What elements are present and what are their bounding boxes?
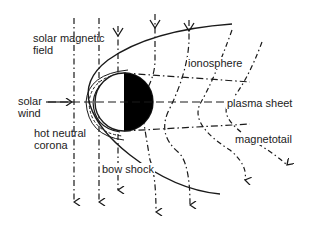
label-solar-magnetic-field-line2: field — [33, 44, 105, 56]
label-hot-neutral-corona: hot neutral corona — [34, 127, 86, 151]
label-bow-shock: bow shock — [101, 163, 155, 175]
label-magnetotail: magnetotail — [234, 133, 293, 145]
field-line-5 — [165, 20, 190, 205]
label-ionosphere: ionosphere — [187, 57, 243, 69]
field-line-top-arrows — [113, 20, 194, 36]
label-solar-magnetic-field-line1: solar magnetic — [33, 32, 105, 44]
label-solar-wind-line1: solar — [18, 95, 42, 107]
label-hot-neutral-corona-line1: hot neutral — [34, 127, 86, 139]
label-solar-wind-line2: wind — [18, 107, 42, 119]
label-solar-magnetic-field: solar magnetic field — [33, 32, 105, 56]
label-plasma-sheet: plasma sheet — [226, 97, 293, 109]
label-hot-neutral-corona-line2: corona — [34, 139, 86, 151]
label-solar-wind: solar wind — [18, 95, 42, 119]
